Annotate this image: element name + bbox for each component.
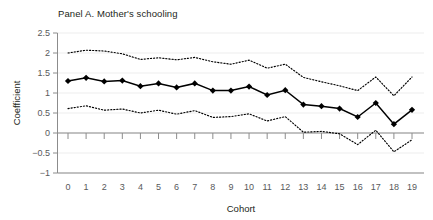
svg-text:1: 1 [45, 88, 50, 98]
svg-text:1.5: 1.5 [37, 68, 50, 78]
coefficient-markers [65, 75, 415, 128]
svg-text:15: 15 [335, 182, 345, 192]
y-axis-title: Coefficient [11, 80, 22, 125]
svg-text:2: 2 [45, 48, 50, 58]
svg-text:0.5: 0.5 [37, 108, 50, 118]
svg-text:11: 11 [262, 182, 271, 192]
svg-text:2.5: 2.5 [37, 28, 50, 38]
svg-text:7: 7 [192, 182, 197, 192]
svg-text:−0.5: −0.5 [32, 148, 50, 158]
svg-text:18: 18 [389, 182, 399, 192]
svg-text:0: 0 [65, 182, 70, 192]
svg-text:10: 10 [244, 182, 254, 192]
svg-text:9: 9 [228, 182, 233, 192]
x-axis-tick-labels: 012345678910111213141516171819 [65, 182, 417, 192]
gridlines [58, 33, 424, 173]
svg-text:14: 14 [316, 182, 326, 192]
svg-text:5: 5 [156, 182, 161, 192]
svg-text:0: 0 [45, 128, 50, 138]
y-axis-tick-labels: 2.521.510.50−0.5−1 [32, 28, 50, 178]
x-axis-title: Cohort [227, 203, 256, 214]
svg-text:1: 1 [84, 182, 89, 192]
svg-text:3: 3 [120, 182, 125, 192]
y-axis-ticks [53, 33, 58, 173]
svg-text:17: 17 [371, 182, 381, 192]
chart-figure: Panel A. Mother's schooling 2.521.510.50… [0, 0, 433, 220]
svg-text:6: 6 [174, 182, 179, 192]
svg-text:8: 8 [210, 182, 215, 192]
svg-text:19: 19 [407, 182, 417, 192]
svg-text:13: 13 [298, 182, 308, 192]
svg-text:4: 4 [138, 182, 143, 192]
svg-text:16: 16 [353, 182, 363, 192]
svg-text:−1: −1 [40, 168, 50, 178]
svg-text:2: 2 [102, 182, 107, 192]
coefficient-line-chart: 2.521.510.50−0.5−1 012345678910111213141… [0, 0, 433, 220]
svg-text:12: 12 [280, 182, 290, 192]
